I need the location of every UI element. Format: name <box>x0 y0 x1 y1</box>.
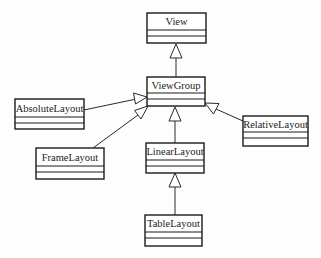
edge-framelayout-to-viewgroup <box>93 106 148 148</box>
inheritance-arrow-icon <box>205 103 219 114</box>
class-name: View <box>165 16 188 27</box>
inheritance-arrow-icon <box>170 44 182 58</box>
inheritance-arrow-icon <box>135 106 149 119</box>
edge-viewgroup-to-view <box>170 44 182 77</box>
class-name: TableLayout <box>147 218 200 229</box>
class-linearlayout: LinearLayout <box>146 143 204 173</box>
class-absolutelayout: AbsoluteLayout <box>15 99 84 129</box>
edge-relativelayout-to-viewgroup <box>205 103 243 121</box>
class-diagram: View ViewGroup AbsoluteLayout RelativeLa… <box>0 0 321 258</box>
class-framelayout: FrameLayout <box>36 148 104 179</box>
class-name: LinearLayout <box>146 146 203 157</box>
class-relativelayout: RelativeLayout <box>243 116 308 146</box>
class-name: FrameLayout <box>42 152 99 163</box>
inheritance-arrow-icon <box>134 93 148 104</box>
edge-absolutelayout-to-viewgroup <box>84 93 147 110</box>
class-name: AbsoluteLayout <box>16 103 84 114</box>
edge-tablelayout-to-linearlayout <box>169 173 181 215</box>
class-view: View <box>147 13 206 43</box>
edge-linearlayout-to-viewgroup <box>169 107 181 143</box>
class-name: RelativeLayout <box>243 119 308 130</box>
inheritance-arrow-icon <box>169 173 181 187</box>
diagram-svg: View ViewGroup AbsoluteLayout RelativeLa… <box>0 0 321 258</box>
inheritance-arrow-icon <box>169 107 181 121</box>
class-tablelayout: TableLayout <box>145 215 202 246</box>
class-name: ViewGroup <box>152 80 201 91</box>
class-viewgroup: ViewGroup <box>147 77 205 106</box>
